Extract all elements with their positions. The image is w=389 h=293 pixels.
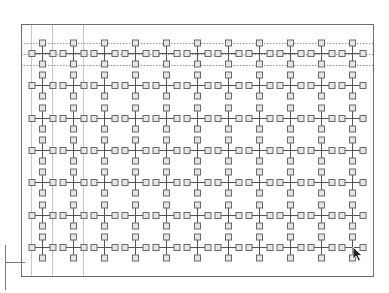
node-handle-square[interactable]: [91, 83, 97, 89]
cross-node[interactable]: [215, 169, 242, 196]
node-handle-square[interactable]: [133, 202, 139, 208]
node-handle-square[interactable]: [112, 180, 118, 186]
node-handle-square[interactable]: [360, 51, 366, 57]
node-handle-square[interactable]: [288, 72, 294, 78]
node-handle-square[interactable]: [164, 105, 170, 111]
node-handle-square[interactable]: [195, 223, 201, 229]
node-handle-square[interactable]: [257, 234, 263, 240]
node-handle-square[interactable]: [112, 148, 118, 154]
node-handle-square[interactable]: [288, 169, 294, 175]
cross-node[interactable]: [308, 234, 335, 261]
node-handle-square[interactable]: [50, 116, 56, 122]
node-handle-square[interactable]: [60, 51, 66, 57]
cross-node[interactable]: [215, 234, 242, 261]
node-handle-square[interactable]: [257, 61, 263, 67]
node-handle-square[interactable]: [81, 51, 87, 57]
node-handle-square[interactable]: [29, 116, 35, 122]
cross-node[interactable]: [29, 105, 56, 132]
node-handle-square[interactable]: [122, 180, 128, 186]
node-handle-square[interactable]: [288, 255, 294, 261]
cross-node[interactable]: [308, 137, 335, 164]
node-handle-square[interactable]: [102, 223, 108, 229]
node-handle-square[interactable]: [288, 93, 294, 99]
node-handle-square[interactable]: [102, 234, 108, 240]
cross-node[interactable]: [29, 234, 56, 261]
node-handle-square[interactable]: [195, 72, 201, 78]
node-handle-square[interactable]: [164, 202, 170, 208]
cross-node[interactable]: [277, 137, 304, 164]
node-handle-square[interactable]: [50, 213, 56, 219]
node-handle-square[interactable]: [102, 255, 108, 261]
node-handle-square[interactable]: [50, 245, 56, 251]
cross-node[interactable]: [153, 137, 180, 164]
node-handle-square[interactable]: [257, 126, 263, 132]
node-handle-square[interactable]: [164, 61, 170, 67]
node-handle-square[interactable]: [288, 234, 294, 240]
cross-node[interactable]: [246, 72, 273, 99]
cross-node[interactable]: [339, 40, 366, 67]
node-handle-square[interactable]: [236, 148, 242, 154]
node-handle-square[interactable]: [319, 190, 325, 196]
cross-node[interactable]: [215, 137, 242, 164]
node-handle-square[interactable]: [236, 245, 242, 251]
node-handle-square[interactable]: [81, 213, 87, 219]
node-handle-square[interactable]: [50, 83, 56, 89]
node-handle-square[interactable]: [226, 93, 232, 99]
node-handle-square[interactable]: [246, 148, 252, 154]
node-handle-square[interactable]: [308, 51, 314, 57]
cross-node[interactable]: [184, 202, 211, 229]
cross-node[interactable]: [91, 72, 118, 99]
cross-node[interactable]: [91, 169, 118, 196]
node-handle-square[interactable]: [298, 245, 304, 251]
cross-node[interactable]: [246, 137, 273, 164]
node-handle-square[interactable]: [277, 148, 283, 154]
cross-node[interactable]: [122, 202, 149, 229]
node-handle-square[interactable]: [71, 40, 77, 46]
node-handle-square[interactable]: [350, 137, 356, 143]
node-handle-square[interactable]: [50, 148, 56, 154]
cross-node[interactable]: [246, 40, 273, 67]
node-handle-square[interactable]: [40, 137, 46, 143]
node-handle-square[interactable]: [102, 93, 108, 99]
node-handle-square[interactable]: [288, 158, 294, 164]
node-handle-square[interactable]: [164, 255, 170, 261]
cross-node[interactable]: [277, 105, 304, 132]
node-handle-square[interactable]: [257, 255, 263, 261]
node-handle-square[interactable]: [81, 148, 87, 154]
node-handle-square[interactable]: [288, 61, 294, 67]
node-handle-square[interactable]: [71, 105, 77, 111]
node-handle-square[interactable]: [71, 158, 77, 164]
node-handle-square[interactable]: [319, 61, 325, 67]
node-handle-square[interactable]: [226, 105, 232, 111]
node-handle-square[interactable]: [133, 137, 139, 143]
node-handle-square[interactable]: [205, 83, 211, 89]
node-handle-square[interactable]: [195, 169, 201, 175]
node-handle-square[interactable]: [91, 148, 97, 154]
node-handle-square[interactable]: [215, 180, 221, 186]
cross-node[interactable]: [91, 105, 118, 132]
node-handle-square[interactable]: [288, 190, 294, 196]
node-handle-square[interactable]: [329, 116, 335, 122]
cross-node[interactable]: [60, 234, 87, 261]
node-handle-square[interactable]: [339, 148, 345, 154]
node-handle-square[interactable]: [350, 158, 356, 164]
node-handle-square[interactable]: [257, 223, 263, 229]
node-handle-square[interactable]: [133, 72, 139, 78]
node-handle-square[interactable]: [288, 223, 294, 229]
cross-node[interactable]: [339, 234, 366, 261]
node-handle-square[interactable]: [339, 51, 345, 57]
node-handle-square[interactable]: [195, 137, 201, 143]
node-handle-square[interactable]: [133, 61, 139, 67]
node-handle-square[interactable]: [226, 126, 232, 132]
node-handle-square[interactable]: [164, 40, 170, 46]
cross-node[interactable]: [153, 202, 180, 229]
cross-node[interactable]: [60, 137, 87, 164]
node-handle-square[interactable]: [102, 61, 108, 67]
node-handle-square[interactable]: [133, 223, 139, 229]
cross-node[interactable]: [29, 40, 56, 67]
node-handle-square[interactable]: [226, 158, 232, 164]
node-handle-square[interactable]: [339, 180, 345, 186]
node-handle-square[interactable]: [329, 51, 335, 57]
node-handle-square[interactable]: [226, 61, 232, 67]
node-handle-square[interactable]: [71, 190, 77, 196]
